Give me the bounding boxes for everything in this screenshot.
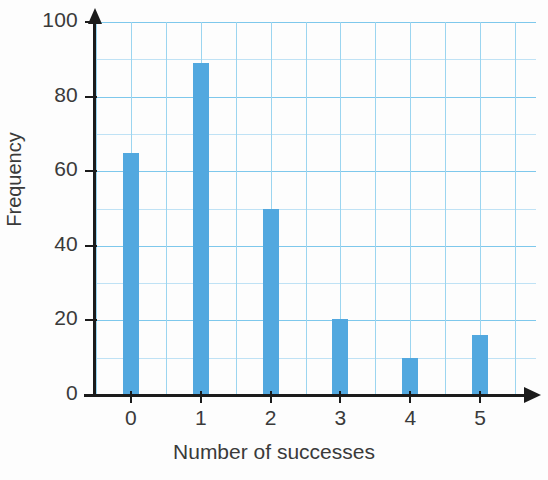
- y-axis-title: Frequency: [3, 100, 26, 260]
- x-tick-label-2: 2: [251, 406, 291, 430]
- bar-0: [123, 153, 139, 395]
- x-tick-mark: [270, 391, 272, 403]
- bar-chart-figure: 100806040200 012345 Frequency Number of …: [0, 0, 548, 480]
- y-tick-label-0: 0: [20, 381, 78, 405]
- x-tick-label-5: 5: [460, 406, 500, 430]
- y-tick-label-80: 80: [20, 83, 78, 107]
- y-tick-label-60: 60: [20, 157, 78, 181]
- bar-2: [263, 209, 279, 396]
- bar-1: [193, 63, 209, 395]
- bar-5: [472, 335, 488, 395]
- y-tick-mark: [85, 319, 97, 321]
- bar-3: [332, 319, 348, 395]
- x-tick-mark: [130, 391, 132, 403]
- x-tick-mark: [339, 391, 341, 403]
- x-tick-label-1: 1: [181, 406, 221, 430]
- x-tick-mark: [200, 391, 202, 403]
- y-tick-mark: [85, 394, 97, 396]
- x-tick-mark: [479, 391, 481, 403]
- bar-4: [402, 358, 418, 395]
- x-axis-arrow-icon: [524, 387, 541, 403]
- y-tick-mark: [85, 170, 97, 172]
- plot-area: [96, 22, 536, 395]
- y-axis-line: [93, 18, 96, 397]
- x-tick-mark: [409, 391, 411, 403]
- y-tick-label-40: 40: [20, 232, 78, 256]
- x-tick-label-0: 0: [111, 406, 151, 430]
- y-tick-label-100: 100: [20, 8, 78, 32]
- y-tick-mark: [85, 21, 97, 23]
- y-tick-label-20: 20: [20, 306, 78, 330]
- x-axis-title: Number of successes: [0, 440, 548, 464]
- x-tick-label-4: 4: [390, 406, 430, 430]
- y-tick-mark: [85, 245, 97, 247]
- y-tick-mark: [85, 96, 97, 98]
- x-tick-label-3: 3: [320, 406, 360, 430]
- x-axis-line: [84, 394, 530, 397]
- bar-series: [96, 22, 536, 395]
